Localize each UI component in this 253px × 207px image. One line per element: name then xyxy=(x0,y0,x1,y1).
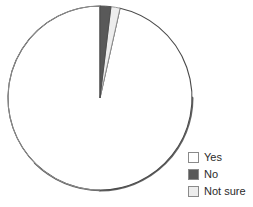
chart-legend: Yes No Not sure xyxy=(188,149,253,200)
legend-label-no: No xyxy=(204,168,218,180)
legend-swatch-yes xyxy=(188,152,199,163)
legend-label-not-sure: Not sure xyxy=(204,185,246,197)
legend-item-yes[interactable]: Yes xyxy=(188,149,253,165)
legend-label-yes: Yes xyxy=(204,151,222,163)
legend-item-not-sure[interactable]: Not sure xyxy=(188,183,253,199)
pie-chart-screenshot: Yes No Not sure xyxy=(0,0,253,207)
legend-swatch-no xyxy=(188,169,199,180)
legend-swatch-not-sure xyxy=(188,186,199,197)
legend-item-no[interactable]: No xyxy=(188,166,253,182)
